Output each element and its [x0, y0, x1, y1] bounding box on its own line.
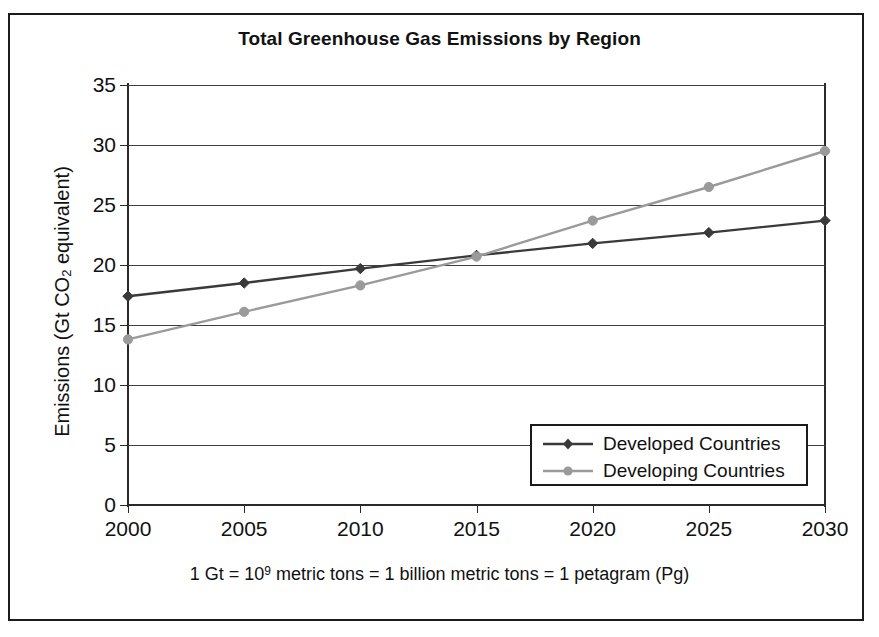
- data-point-marker: [472, 252, 481, 261]
- data-point-marker: [704, 182, 713, 191]
- x-tick-mark: [825, 505, 826, 513]
- y-axis-title-subscript: 2: [59, 270, 74, 277]
- y-tick-mark: [120, 505, 128, 506]
- x-tick-mark: [360, 505, 361, 513]
- legend-diamond-icon: [542, 437, 594, 451]
- y-tick-label: 15: [93, 313, 116, 337]
- data-point-marker: [356, 281, 365, 290]
- chart-title: Total Greenhouse Gas Emissions by Region: [0, 28, 879, 50]
- x-tick-label: 2020: [569, 517, 616, 541]
- y-tick-mark: [120, 385, 128, 386]
- data-point-marker: [588, 216, 597, 225]
- y-axis-title: Emissions (Gt CO2 equivalent): [51, 87, 74, 517]
- x-tick-label: 2030: [802, 517, 849, 541]
- x-tick-label: 2000: [105, 517, 152, 541]
- legend-label: Developed Countries: [603, 433, 780, 455]
- footnote-part1: 1 Gt = 10: [190, 564, 265, 584]
- data-point-marker: [587, 238, 597, 248]
- data-point-marker: [704, 227, 714, 237]
- y-tick-label: 0: [104, 493, 116, 517]
- footnote-part2: metric tons = 1 billion metric tons = 1 …: [271, 564, 689, 584]
- y-tick-mark: [120, 265, 128, 266]
- chart-legend: Developed CountriesDeveloping Countries: [530, 424, 808, 486]
- x-tick-label: 2015: [453, 517, 500, 541]
- y-tick-mark: [120, 445, 128, 446]
- figure-container: Total Greenhouse Gas Emissions by Region…: [0, 0, 879, 637]
- y-tick-label: 25: [93, 193, 116, 217]
- y-tick-label: 20: [93, 253, 116, 277]
- y-tick-label: 35: [93, 73, 116, 97]
- footnote: 1 Gt = 109 metric tons = 1 billion metri…: [0, 564, 879, 585]
- series-line: [128, 151, 825, 339]
- data-point-marker: [123, 335, 132, 344]
- y-tick-label: 10: [93, 373, 116, 397]
- x-tick-label: 2025: [685, 517, 732, 541]
- y-tick-mark: [120, 205, 128, 206]
- y-tick-label: 5: [104, 433, 116, 457]
- x-tick-mark: [244, 505, 245, 513]
- legend-item[interactable]: Developed Countries: [532, 430, 806, 457]
- y-tick-label: 30: [93, 133, 116, 157]
- legend-label: Developing Countries: [603, 460, 785, 482]
- x-tick-mark: [477, 505, 478, 513]
- data-point-marker: [240, 307, 249, 316]
- y-tick-mark: [120, 325, 128, 326]
- x-tick-label: 2005: [221, 517, 268, 541]
- data-point-marker: [820, 146, 829, 155]
- x-tick-label: 2010: [337, 517, 384, 541]
- x-tick-mark: [128, 505, 129, 513]
- y-tick-mark: [120, 85, 128, 86]
- legend-circle-icon: [542, 464, 594, 478]
- y-axis-title-suffix: equivalent): [51, 166, 73, 269]
- y-axis-title-prefix: Emissions (Gt CO: [51, 277, 73, 437]
- data-point-marker: [355, 263, 365, 273]
- y-tick-mark: [120, 145, 128, 146]
- data-point-marker: [239, 278, 249, 288]
- x-tick-mark: [593, 505, 594, 513]
- x-tick-mark: [709, 505, 710, 513]
- legend-item[interactable]: Developing Countries: [532, 457, 806, 484]
